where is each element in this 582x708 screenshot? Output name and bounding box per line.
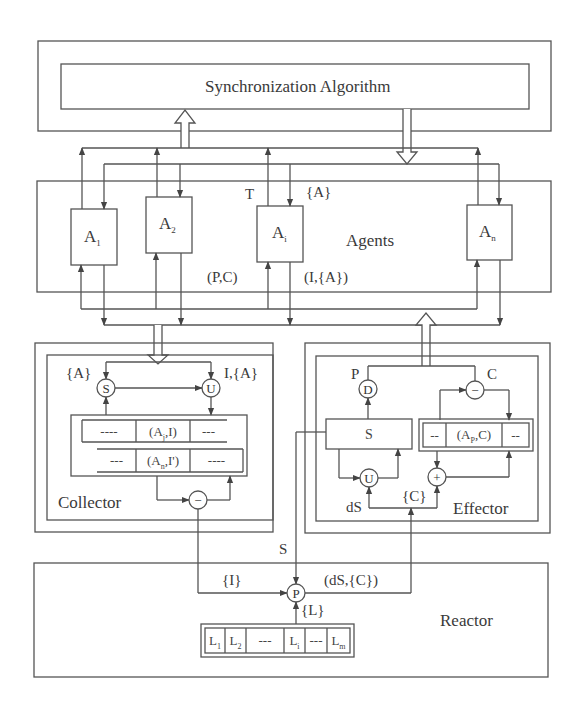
effector-op-d-label: D (360, 383, 376, 396)
agents-box (37, 181, 551, 292)
effector-table-mid-base: (A (457, 427, 471, 442)
collector-row2-mid-tail: ,I') (165, 453, 179, 468)
collector-op-minus-label: − (190, 494, 206, 507)
effector-s-box-label: S (326, 428, 412, 442)
reactor-cell-3-base: --- (259, 633, 272, 648)
collector-op-s-label: S (98, 382, 114, 395)
label-i-agents: (I,{A}) (304, 270, 348, 285)
collector-row1-right: --- (190, 425, 227, 438)
effector-label-ds: dS (346, 500, 362, 515)
agent-n-sub: n (491, 233, 496, 243)
agent-1-sub: 1 (96, 238, 101, 248)
reactor-label-i-set: {I} (222, 573, 241, 588)
reactor-cell-1-base: L (209, 633, 217, 648)
hollow-down-arrow-to-collector (148, 325, 168, 364)
reactor-cell-4-sub: i (297, 642, 299, 651)
effector-label-c-set: {C} (402, 489, 426, 504)
agent-2-base: A (159, 214, 171, 233)
reactor-cell-6: Lm (327, 634, 350, 651)
effector-table-left: -- (423, 429, 446, 442)
reactor-cell-1-sub: 1 (217, 642, 221, 651)
agent-label-i: Ai (272, 224, 287, 244)
collector-label-i-agents: I,{A} (224, 366, 258, 381)
agent-i-sub: i (284, 234, 287, 244)
label-s-to-reactor: S (279, 542, 287, 557)
agent-label-2: A2 (159, 215, 176, 235)
hollow-down-arrow-from-sync (397, 109, 417, 164)
collector-row2-mid-base: (A (147, 453, 161, 468)
effector-op-u-label: U (361, 472, 377, 485)
effector-table-right: -- (502, 429, 529, 442)
reactor-op-p-label: P (288, 587, 304, 600)
hollow-up-arrow-from-effector (416, 313, 436, 366)
reactor-cell-3: --- (246, 634, 284, 647)
reactor-label-l-set: {L} (301, 603, 325, 618)
hollow-up-arrow-to-sync (175, 110, 195, 148)
agent-i-base: A (272, 223, 284, 242)
agent-1-base: A (84, 227, 96, 246)
effector-label-c: C (487, 367, 497, 382)
collector-op-u-label: U (203, 382, 219, 395)
collector-row2-left: --- (97, 454, 136, 467)
agent-label-n: An (479, 223, 496, 243)
agents-label: Agents (346, 232, 394, 249)
label-t: T (245, 187, 254, 202)
architecture-diagram (0, 0, 582, 708)
reactor-cell-2: L2 (225, 634, 246, 651)
effector-table-mid-tail: ,C) (475, 427, 491, 442)
reactor-cell-2-sub: 2 (237, 642, 241, 651)
reactor-cell-1: L1 (205, 634, 225, 651)
reactor-cell-6-sub: m (339, 642, 345, 651)
collector-row2-right: ---- (190, 454, 243, 467)
effector-op-plus-label: + (429, 471, 445, 484)
sync-algorithm-title: Synchronization Algorithm (205, 78, 391, 95)
reactor-cell-5: --- (305, 634, 327, 647)
reactor-cell-4: Li (284, 634, 305, 651)
effector-label: Effector (453, 500, 508, 517)
collector-row1-mid-base: (A (149, 424, 163, 439)
effector-table-mid: (AP,C) (446, 428, 502, 445)
effector-op-minus-label: − (467, 384, 483, 397)
collector-row1-mid-tail: ,I) (165, 424, 177, 439)
collector-row1-left: ---- (82, 425, 136, 438)
label-p-c: (P,C) (207, 270, 237, 285)
agent-2-sub: 2 (171, 225, 176, 235)
agent-label-1: A1 (84, 228, 101, 248)
collector-row1-mid: (Aj,I) (136, 425, 190, 442)
collector-label: Collector (58, 494, 121, 511)
reactor-label-ds-c: (dS,{C}) (324, 573, 378, 588)
label-agents-set: {A} (306, 185, 331, 200)
agent-n-base: A (479, 222, 491, 241)
collector-row2-mid: (An,I') (136, 454, 190, 471)
reactor-cell-5-base: --- (310, 633, 323, 648)
effector-label-p: P (351, 367, 359, 382)
collector-label-agents-set: {A} (66, 366, 91, 381)
reactor-label: Reactor (440, 612, 493, 629)
